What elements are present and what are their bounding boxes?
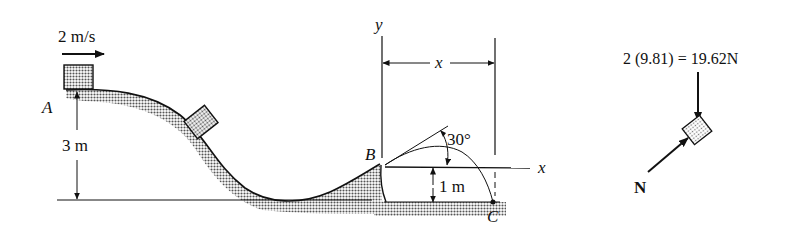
- angle-arc-arrow-top: [440, 130, 446, 137]
- block-a: [64, 65, 93, 89]
- track-shading: [66, 90, 506, 216]
- height-b-label: 1 m: [439, 177, 465, 196]
- x-axis: [385, 167, 530, 168]
- x-axis-label: x: [537, 158, 546, 177]
- normal-force-label: N: [634, 178, 647, 197]
- point-c-label: C: [487, 207, 499, 226]
- weight-label: 2 (9.81) = 19.62N: [623, 50, 739, 68]
- velocity-label: 2 m/s: [58, 27, 95, 46]
- normal-force-arrow: [648, 138, 688, 172]
- point-c-marker: [491, 200, 496, 205]
- angle-label: 30°: [447, 130, 471, 149]
- distance-x-label: x: [434, 53, 443, 72]
- y-axis-label: y: [373, 15, 383, 34]
- height-a-label: 3 m: [62, 136, 88, 155]
- free-body-diagram: 2 (9.81) = 19.62N N: [623, 50, 739, 197]
- point-b-label: B: [365, 145, 376, 164]
- physics-diagram: 2 m/s A 3 m y B x x 30° 1 m C 2 (9.81) =…: [0, 0, 807, 235]
- point-a-label: A: [41, 98, 53, 117]
